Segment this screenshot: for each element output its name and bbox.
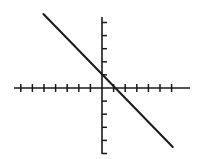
line-graph-figure bbox=[0, 0, 201, 159]
coordinate-plane-plot bbox=[0, 0, 201, 159]
plot-background bbox=[0, 0, 201, 159]
